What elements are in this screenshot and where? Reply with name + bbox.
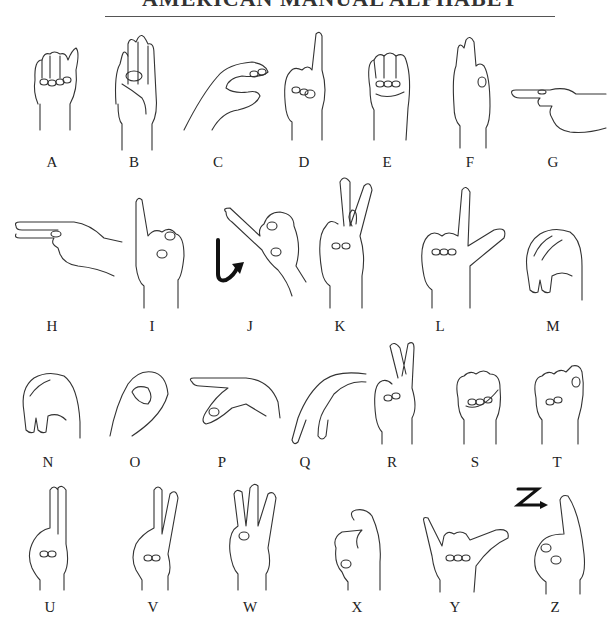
letter-label: W	[235, 599, 265, 616]
hand-sign-r-icon	[372, 338, 426, 448]
hand-sign-d-icon	[282, 30, 332, 150]
letter-label: N	[33, 454, 63, 471]
letter-label: L	[425, 318, 455, 335]
letter-label: C	[203, 154, 233, 171]
letter-label: B	[119, 154, 149, 171]
hand-sign-v-icon	[128, 484, 184, 594]
hand-sign-i-icon	[132, 196, 192, 312]
hand-sign-b-icon	[112, 34, 162, 154]
letter-label: Y	[440, 599, 470, 616]
hand-sign-o-icon	[108, 364, 174, 440]
hand-sign-x-icon	[332, 508, 388, 594]
hand-sign-s-icon	[454, 368, 504, 448]
hand-sign-p-icon	[186, 376, 282, 436]
hand-sign-y-icon	[420, 516, 514, 596]
letter-label: A	[37, 154, 67, 171]
hand-sign-f-icon	[450, 36, 496, 152]
hand-sign-n-icon	[18, 372, 84, 442]
letter-label: T	[542, 454, 572, 471]
letter-label: Z	[540, 599, 570, 616]
letter-label: R	[377, 454, 407, 471]
letter-label: I	[137, 318, 167, 335]
letter-label: K	[325, 318, 355, 335]
hand-sign-e-icon	[366, 48, 412, 148]
chart-title: AMERICAN MANUAL ALPHABET	[105, 0, 555, 12]
hand-sign-k-icon	[316, 176, 378, 312]
hand-sign-c-icon	[182, 54, 272, 134]
hand-sign-j-icon	[222, 206, 306, 306]
hand-sign-g-icon	[510, 88, 607, 138]
letter-label: E	[372, 154, 402, 171]
title-divider	[105, 16, 555, 17]
hand-sign-q-icon	[288, 370, 368, 450]
letter-label: S	[460, 454, 490, 471]
letter-label: Q	[290, 454, 320, 471]
letter-label: G	[538, 154, 568, 171]
letter-label: U	[35, 599, 65, 616]
letter-label: D	[289, 154, 319, 171]
hand-sign-h-icon	[14, 220, 124, 280]
letter-label: J	[235, 318, 265, 335]
letter-label: F	[455, 154, 485, 171]
hand-sign-z-icon	[530, 494, 590, 598]
hand-sign-l-icon	[418, 186, 508, 312]
hand-sign-t-icon	[532, 364, 588, 448]
letter-label: P	[207, 454, 237, 471]
hand-sign-m-icon	[522, 226, 586, 306]
letter-label: M	[538, 318, 568, 335]
hand-sign-u-icon	[26, 484, 76, 594]
hand-sign-w-icon	[226, 482, 286, 594]
letter-label: O	[120, 454, 150, 471]
letter-label: H	[37, 318, 67, 335]
hand-sign-a-icon	[30, 30, 80, 150]
letter-label: V	[138, 599, 168, 616]
letter-label: X	[342, 599, 372, 616]
